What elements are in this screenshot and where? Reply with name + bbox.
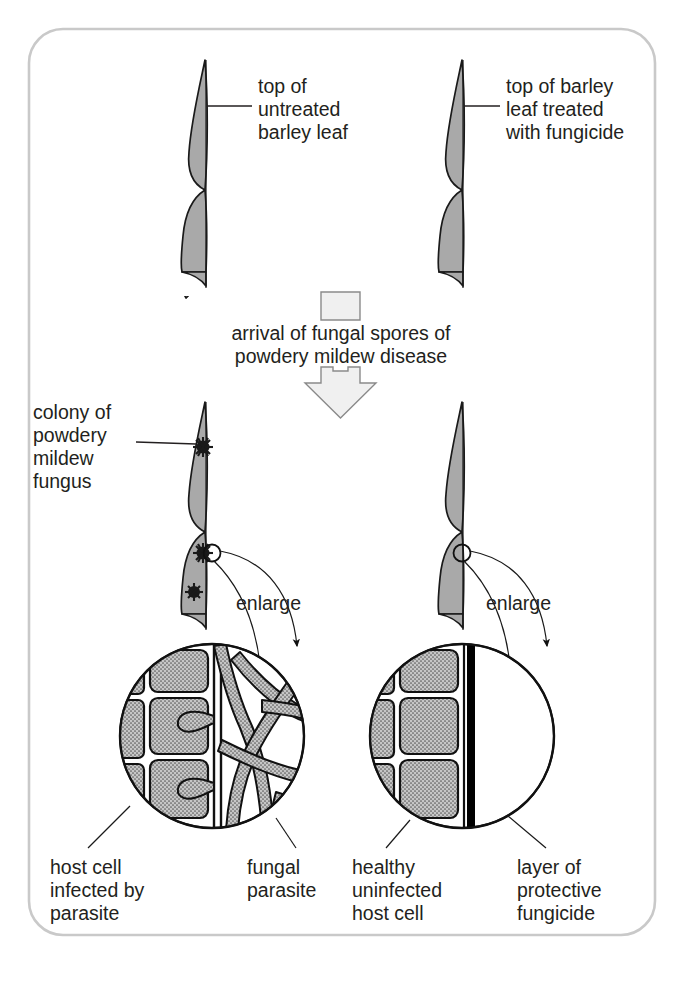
label-top-left-line-1: top of — [258, 75, 307, 97]
leaf-bottom-protected — [438, 402, 470, 630]
label-process: arrival of fungal spores of powdery mild… — [232, 322, 452, 367]
label-fungal-parasite-line-2: parasite — [247, 879, 316, 901]
leader-fungicide-layer — [508, 816, 546, 848]
figure-border — [29, 29, 655, 935]
label-process-line-2: powdery mildew disease — [235, 345, 447, 367]
label-colony-line-1: colony of — [33, 401, 112, 423]
label-top-left-line-3: barley leaf — [258, 121, 349, 143]
label-colony-line-3: mildew — [33, 447, 95, 469]
label-colony-line-4: fungus — [33, 470, 92, 492]
leader-healthy-host-cell — [386, 820, 410, 848]
leader-colony — [136, 442, 196, 444]
figure-root: top of untreated barley leaf top of barl… — [0, 0, 687, 988]
leader-fungal-parasite — [276, 818, 296, 848]
leaf-top-untreated — [168, 50, 234, 296]
detail-circle-protected — [354, 644, 554, 830]
label-host-cell-infected-line-2: infected by — [50, 879, 145, 901]
leaf-top-treated — [425, 50, 491, 296]
label-colony-line-2: powdery — [33, 424, 107, 446]
label-top-right-line-3: with fungicide — [505, 121, 624, 143]
label-host-cell-infected-line-3: parasite — [50, 902, 119, 924]
label-top-right-line-1: top of barley — [506, 75, 614, 97]
label-colony: colony of powdery mildew fungus — [33, 401, 112, 492]
mildew-colony-1 — [193, 437, 213, 457]
label-fungicide-layer: layer of protective fungicide — [517, 856, 602, 924]
label-healthy-host-cell-line-1: healthy — [352, 856, 415, 878]
label-top-left: top of untreated barley leaf — [258, 75, 349, 143]
label-process-line-1: arrival of fungal spores of — [232, 322, 452, 344]
label-top-right: top of barley leaf treated with fungicid… — [505, 75, 624, 143]
label-healthy-host-cell-line-3: host cell — [352, 902, 424, 924]
label-healthy-host-cell-line-2: uninfected — [352, 879, 442, 901]
label-fungal-parasite-line-1: fungal — [247, 856, 300, 878]
label-enlarge-right: enlarge — [486, 592, 551, 614]
leaf-bottom-infected — [181, 402, 220, 630]
diagram-canvas: top of untreated barley leaf top of barl… — [0, 0, 687, 988]
label-enlarge-left: enlarge — [236, 592, 301, 614]
label-host-cell-infected-line-1: host cell — [50, 856, 122, 878]
label-fungicide-layer-line-1: layer of — [517, 856, 582, 878]
label-top-left-line-2: untreated — [258, 98, 340, 120]
label-fungicide-layer-line-3: fungicide — [517, 902, 595, 924]
label-fungal-parasite: fungal parasite — [247, 856, 316, 901]
label-fungicide-layer-line-2: protective — [517, 879, 602, 901]
leader-host-cell-infected — [88, 806, 130, 848]
detail-circle-infected — [104, 644, 392, 830]
fungicide-layer — [467, 644, 475, 830]
label-healthy-host-cell: healthy uninfected host cell — [352, 856, 442, 924]
label-top-right-line-2: leaf treated — [506, 98, 604, 120]
label-host-cell-infected: host cell infected by parasite — [50, 856, 145, 924]
